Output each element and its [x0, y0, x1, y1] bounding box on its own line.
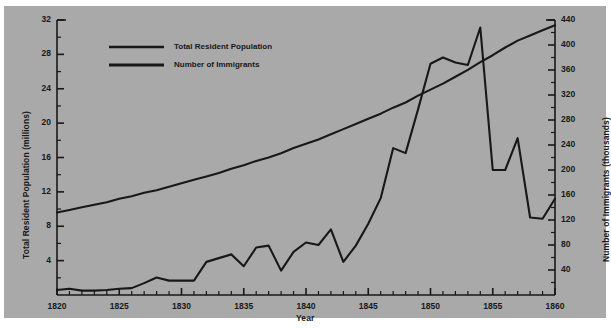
series-line-number-of-immigrants: [57, 28, 555, 291]
right-tick-label: 240: [561, 139, 589, 149]
left-tick-label: 16: [23, 152, 51, 162]
x-tick-label: 1835: [224, 301, 264, 311]
x-tick-label: 1855: [473, 301, 513, 311]
right-tick-label: 320: [561, 89, 589, 99]
left-tick-label: 12: [23, 186, 51, 196]
legend-swatches: [109, 47, 164, 65]
chart-plate: Total Resident Population (millions) Num…: [4, 6, 606, 318]
legend-label: Total Resident Population: [174, 42, 272, 51]
right-tick-label: 400: [561, 39, 589, 49]
right-tick-label: 440: [561, 14, 589, 24]
right-tick-label: 280: [561, 114, 589, 124]
chart-canvas: [4, 6, 606, 318]
left-tick-label: 20: [23, 117, 51, 127]
right-tick-label: 120: [561, 214, 589, 224]
left-tick-label: 4: [23, 255, 51, 265]
left-axis-ticks: [57, 20, 64, 278]
x-tick-label: 1860: [535, 301, 575, 311]
x-tick-label: 1850: [411, 301, 451, 311]
right-tick-label: 40: [561, 264, 589, 274]
x-tick-label: 1845: [348, 301, 388, 311]
right-tick-label: 360: [561, 64, 589, 74]
right-tick-label: 80: [561, 239, 589, 249]
left-tick-label: 32: [23, 14, 51, 24]
x-tick-label: 1820: [37, 301, 77, 311]
right-tick-label: 160: [561, 189, 589, 199]
left-tick-label: 8: [23, 220, 51, 230]
x-tick-label: 1840: [286, 301, 326, 311]
left-tick-label: 24: [23, 83, 51, 93]
legend-label: Number of Immigrants: [174, 60, 259, 69]
right-tick-label: 200: [561, 164, 589, 174]
series-line-total-resident-population: [57, 25, 555, 212]
left-tick-label: 28: [23, 48, 51, 58]
x-tick-label: 1830: [162, 301, 202, 311]
right-axis-title: Number of Immigrants (thousands): [601, 117, 611, 262]
x-axis-title: Year: [296, 313, 314, 323]
right-axis-ticks: [548, 20, 555, 283]
x-tick-label: 1825: [99, 301, 139, 311]
